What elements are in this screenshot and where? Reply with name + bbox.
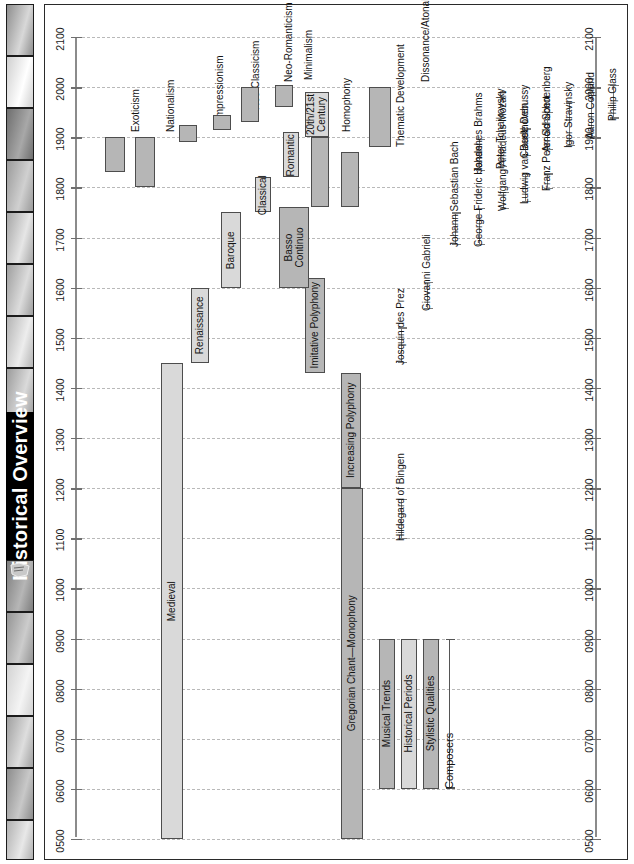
axis-left xyxy=(75,37,77,837)
gridline xyxy=(77,789,595,790)
thumb-6[interactable] xyxy=(6,264,34,316)
axis-tick-label: 1500 xyxy=(54,328,66,351)
page-title: Historical Overview xyxy=(9,391,32,580)
axis-tick-label: 1100 xyxy=(583,529,595,552)
composer-range[interactable]: Arnold Schoenberg xyxy=(547,112,548,151)
timeline-bar[interactable]: 20th/21stCentury xyxy=(305,92,329,137)
axis-tick xyxy=(71,288,82,289)
thumb-11[interactable] xyxy=(6,664,34,716)
composer-range[interactable]: Franz Peter Schubert xyxy=(547,173,548,189)
bar-label: Nationalism xyxy=(166,80,177,132)
composer-range[interactable]: Aaron Copland xyxy=(591,92,592,137)
composer-range[interactable]: Wolfgang Amadeus Mozart xyxy=(503,192,504,210)
gridline xyxy=(77,238,595,239)
composer-name: Claude Debussy xyxy=(519,85,530,158)
axis-tick-label: 1300 xyxy=(583,428,595,451)
thumb-10[interactable] xyxy=(6,612,34,664)
axis-right xyxy=(595,37,597,837)
timeline-bar[interactable]: BassoContinuo xyxy=(279,207,309,287)
axis-tick-label: 1200 xyxy=(583,478,595,501)
thumb-5[interactable] xyxy=(6,212,34,264)
composer-name: Igor Stravinsky xyxy=(563,82,574,148)
timeline-bar[interactable]: Romantic xyxy=(283,132,299,177)
gridline xyxy=(77,689,595,690)
thumb-1[interactable] xyxy=(6,4,34,56)
composer-range[interactable]: Igor Stravinsky xyxy=(569,102,570,147)
composer-name: Johann Sebastian Bach xyxy=(449,141,460,247)
gridline xyxy=(77,438,595,439)
thumb-2[interactable] xyxy=(6,56,34,108)
bar-label: 20th/21stCentury xyxy=(307,94,328,135)
composer-name: Hildegard of Bingen xyxy=(395,453,406,541)
axis-tick-label: 2100 xyxy=(583,27,595,50)
timeline-bar[interactable]: Dissonance/Atonality xyxy=(369,87,391,147)
axis-tick xyxy=(71,238,82,239)
legend-swatch: Historical Periods xyxy=(401,639,417,789)
timeline-bar[interactable]: Classical xyxy=(255,177,271,212)
composer-range[interactable]: Ludwig van Beethoven xyxy=(525,174,526,203)
timeline-bar[interactable]: Nationalism xyxy=(135,137,155,187)
axis-tick-label: 1600 xyxy=(583,278,595,301)
timeline-bar[interactable]: Medieval xyxy=(161,363,183,839)
composer-name: Josquin des Prez xyxy=(395,288,406,365)
composer-range[interactable]: Johannes Brahms xyxy=(479,139,480,171)
timeline-bar[interactable]: Impressionism xyxy=(179,125,197,143)
axis-tick-label: 1500 xyxy=(583,328,595,351)
axis-tick xyxy=(71,388,82,389)
thumb-3[interactable] xyxy=(6,108,34,160)
axis-tick-label: 0800 xyxy=(583,679,595,702)
axis-tick xyxy=(71,739,82,740)
composer-range[interactable]: Peter Tchaikovsky xyxy=(501,141,502,168)
bar-label: Imitative Polyphony xyxy=(310,282,321,369)
timeline-bar[interactable]: Thematic Development xyxy=(341,152,359,207)
thumb-14[interactable] xyxy=(6,820,34,860)
composer-range[interactable]: George Frideric Handel xyxy=(479,208,480,245)
thumb-7[interactable] xyxy=(6,316,34,368)
composer-name: Arnold Schoenberg xyxy=(541,67,552,153)
screenshot-root: { "sidebar": { "title": "Historical Over… xyxy=(0,0,634,864)
bar-label: Thematic Development xyxy=(396,44,407,147)
thumbnail-strip[interactable]: Historical Overview xyxy=(6,4,34,860)
bar-label: Impressionism xyxy=(215,55,226,119)
composer-name: Philip Glass xyxy=(607,68,618,121)
axis-tick-label: 0500 xyxy=(583,829,595,852)
axis-tick xyxy=(71,789,82,790)
timeline-bar[interactable]: Renaissance xyxy=(191,288,209,363)
gridline xyxy=(77,338,595,339)
timeline-bar[interactable]: Increasing Polyphony xyxy=(341,373,361,488)
sidebar-title-bar: Historical Overview xyxy=(6,412,34,560)
timeline-bar[interactable]: Minimalism xyxy=(275,85,293,108)
thumb-12[interactable] xyxy=(6,716,34,768)
composer-range[interactable]: Johann Sebastian Bach xyxy=(455,212,456,245)
axis-tick-label: 0900 xyxy=(54,629,66,652)
timeline-bar[interactable]: Imitative Polyphony xyxy=(305,278,325,373)
composer-range[interactable]: Claude Debussy xyxy=(525,128,526,156)
axis-tick xyxy=(71,639,82,640)
axis-tick xyxy=(71,438,82,439)
chart-frame: 2100200019001800170016001500140013001200… xyxy=(44,4,628,860)
timeline-bar[interactable]: Exoticism xyxy=(105,137,125,172)
axis-tick xyxy=(71,87,82,88)
axis-tick xyxy=(71,137,82,138)
gridline xyxy=(77,588,595,589)
thumb-4[interactable] xyxy=(6,160,34,212)
composer-range[interactable]: Philip Glass xyxy=(613,85,614,119)
thumb-13[interactable] xyxy=(6,768,34,820)
axis-tick xyxy=(71,538,82,539)
timeline-bar[interactable]: Baroque xyxy=(221,212,241,287)
legend-label: Composers xyxy=(443,733,455,789)
timeline-bar[interactable]: Neo-Classicism xyxy=(213,115,231,130)
timeline-bar[interactable]: Homophony xyxy=(311,137,329,207)
axis-tick-label: 1000 xyxy=(54,579,66,602)
timeline-bar[interactable]: Gregorian Chant—Monophony xyxy=(341,488,363,839)
plot-area: 2100200019001800170016001500140013001200… xyxy=(75,15,597,849)
composer-range[interactable]: Josquin des Prez xyxy=(401,327,402,363)
gridline xyxy=(77,839,595,840)
axis-tick-label: 1800 xyxy=(583,178,595,201)
composer-range[interactable]: Hildegard of Bingen xyxy=(401,499,402,540)
timeline-bar[interactable]: Neo-Romanticism xyxy=(241,87,259,122)
composer-range[interactable]: Giovanni Gabrieli xyxy=(427,282,428,310)
axis-tick-label: 0600 xyxy=(583,779,595,802)
bar-label: Renaissance xyxy=(195,296,206,354)
gridline xyxy=(77,288,595,289)
